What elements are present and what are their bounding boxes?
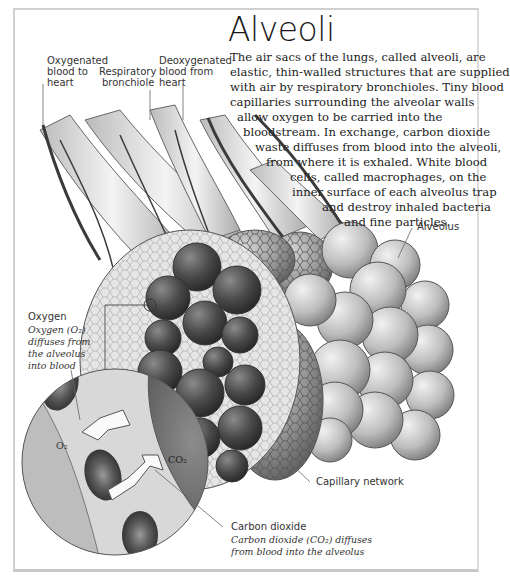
intro-line: allow oxygen to be carried into the	[237, 110, 442, 126]
intro-line: capillaries surrounding the alveolar wal…	[230, 95, 474, 111]
intro-line: cells, called macrophages, on the	[290, 170, 486, 186]
label-alveolus: Alveolus	[417, 221, 459, 233]
label-capillary-network: Capillary network	[316, 476, 404, 488]
inset-label-co2: CO₂	[168, 454, 187, 466]
intro-line: inner surface of each alveolus trap	[292, 185, 497, 201]
intro-line: with air by respiratory bronchioles. Tin…	[230, 80, 504, 96]
intro-line: and destroy inhaled bacteria	[322, 200, 491, 216]
intro-line: waste diffuses from blood into the alveo…	[255, 140, 501, 156]
intro-line: from where it is exhaled. White blood	[266, 155, 487, 171]
intro-line: The air sacs of the lungs, called alveol…	[230, 50, 486, 66]
intro-line: elastic, thin-walled structures that are…	[230, 65, 510, 81]
inset-label-o2: O₂	[56, 440, 68, 452]
page-title: Alveoli	[228, 10, 335, 49]
intro-line: bloodstream. In exchange, carbon dioxide	[243, 125, 490, 141]
